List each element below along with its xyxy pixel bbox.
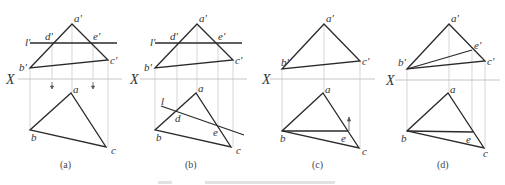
label-b-prime: b'	[144, 61, 153, 73]
label-b: b	[31, 131, 37, 143]
label-a-prime: a'	[451, 12, 460, 24]
x-axis-label: X	[385, 73, 395, 88]
panel-c: X a' b' c' a b c e (c)	[261, 12, 375, 171]
label-d: d	[175, 112, 181, 124]
x-axis-label: X	[129, 72, 139, 87]
label-l-prime: l'	[150, 36, 156, 48]
panel-caption: (d)	[437, 159, 449, 171]
label-c: c	[111, 144, 116, 156]
figure-caption-faint	[158, 181, 335, 184]
panel-caption: (b)	[185, 159, 197, 171]
label-c: c	[483, 147, 488, 159]
label-a: a	[450, 83, 456, 95]
label-a: a	[198, 82, 204, 94]
label-b: b	[280, 132, 286, 144]
label-c: c	[362, 145, 367, 157]
line-l	[161, 106, 244, 135]
projection-diagram: X a' b' c' d' e' l' a b c (a) X	[0, 0, 505, 185]
label-a-prime: a'	[326, 12, 335, 24]
label-b-prime: b'	[398, 56, 407, 68]
top-triangle	[30, 93, 106, 147]
label-c-prime: c'	[487, 55, 495, 67]
label-c-prime: c'	[110, 54, 118, 66]
label-d-prime: d'	[45, 30, 54, 42]
arrow-head-icon	[51, 86, 54, 89]
panel-b: X a' b' c' d' e' l' a b c d e l (b)	[129, 12, 247, 171]
top-triangle	[155, 93, 231, 147]
panel-d: X a' b' c' e' a b c e (d)	[385, 12, 500, 171]
label-c: c	[236, 144, 241, 156]
label-e: e	[213, 126, 218, 138]
panel-a: X a' b' c' d' e' l' a b c (a)	[5, 12, 122, 171]
label-e-prime: e'	[474, 39, 482, 51]
panel-caption: (c)	[312, 159, 323, 171]
label-e-prime: e'	[218, 30, 226, 42]
panel-caption: (a)	[60, 159, 71, 171]
label-d-prime: d'	[170, 30, 179, 42]
label-e: e	[341, 132, 346, 144]
label-l-prime: l'	[25, 36, 31, 48]
label-e: e	[466, 133, 471, 145]
arrow-head-icon	[92, 86, 95, 89]
label-a: a	[73, 83, 79, 95]
label-b: b	[156, 131, 162, 143]
x-axis-label: X	[5, 72, 15, 87]
top-triangle	[407, 93, 484, 148]
label-a-prime: a'	[74, 12, 83, 24]
line-be	[407, 131, 473, 132]
label-b-prime: b'	[281, 56, 290, 68]
label-l: l	[161, 95, 164, 107]
x-axis-label: X	[261, 72, 271, 87]
label-b-prime: b'	[19, 61, 28, 73]
label-b: b	[401, 132, 407, 144]
label-a-prime: a'	[199, 12, 208, 24]
arrow-up-icon	[348, 117, 351, 121]
label-e-prime: e'	[93, 30, 101, 42]
label-a: a	[325, 83, 331, 95]
label-c-prime: c'	[362, 55, 370, 67]
label-c-prime: c'	[235, 54, 243, 66]
front-triangle	[282, 24, 360, 69]
